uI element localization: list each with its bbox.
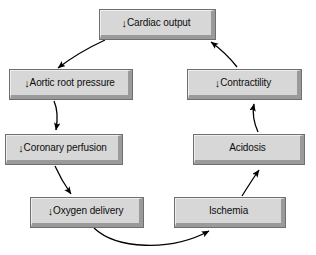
node-contractility-label: Contractility	[220, 78, 271, 88]
node-cardiac-output-inner: ↓Cardiac output	[101, 11, 211, 35]
edge-cardiac-output-to-aortic-root-pressure	[58, 40, 105, 68]
edge-aortic-root-pressure-to-coronary-perfusion	[54, 101, 57, 130]
node-oxygen-delivery-inner: ↓Oxygen delivery	[32, 199, 139, 223]
node-oxygen-delivery-label: Oxygen delivery	[53, 206, 123, 216]
node-aortic-root-pressure[interactable]: ↓Aortic root pressure	[10, 70, 132, 99]
down-arrow-icon: ↓	[215, 78, 220, 89]
node-cardiac-output-label: Cardiac output	[127, 18, 191, 28]
down-arrow-icon: ↓	[121, 18, 126, 29]
node-acidosis[interactable]: Acidosis	[194, 135, 304, 164]
down-arrow-icon: ↓	[48, 206, 53, 217]
edge-contractility-to-cardiac-output	[211, 42, 237, 67]
node-acidosis-inner: Acidosis	[195, 136, 300, 160]
node-contractility-inner: ↓Contractility	[189, 71, 297, 95]
cardiac-cycle-diagram: ↓Cardiac output ↓Aortic root pressure ↓C…	[0, 0, 316, 255]
node-cardiac-output[interactable]: ↓Cardiac output	[100, 10, 215, 39]
edge-ischemia-to-acidosis	[242, 170, 259, 196]
edge-coronary-perfusion-to-oxygen-delivery	[55, 166, 71, 194]
node-aortic-root-pressure-label: Aortic root pressure	[30, 78, 115, 88]
edge-acidosis-to-contractility	[253, 104, 258, 132]
node-coronary-perfusion[interactable]: ↓Coronary perfusion	[6, 135, 122, 164]
node-oxygen-delivery[interactable]: ↓Oxygen delivery	[31, 198, 143, 227]
node-ischemia-label: Ischemia	[209, 206, 248, 216]
node-contractility[interactable]: ↓Contractility	[188, 70, 301, 99]
node-aortic-root-pressure-inner: ↓Aortic root pressure	[11, 71, 128, 95]
node-ischemia[interactable]: Ischemia	[175, 198, 285, 227]
down-arrow-icon: ↓	[24, 78, 29, 89]
node-acidosis-label: Acidosis	[229, 143, 265, 153]
node-ischemia-inner: Ischemia	[176, 199, 281, 223]
node-coronary-perfusion-label: Coronary perfusion	[24, 143, 107, 153]
node-coronary-perfusion-inner: ↓Coronary perfusion	[7, 136, 118, 160]
edge-oxygen-delivery-to-ischemia	[94, 228, 209, 245]
down-arrow-icon: ↓	[18, 143, 23, 154]
